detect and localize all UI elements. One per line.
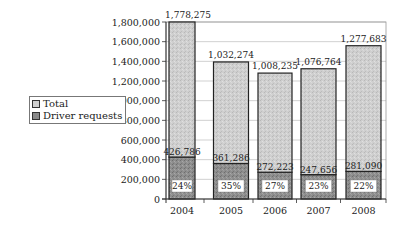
total-value-label: 1,778,275 bbox=[165, 10, 211, 20]
bar-total bbox=[169, 22, 195, 157]
percent-label: 27% bbox=[265, 181, 285, 191]
driver-requests-value-label: 426,786 bbox=[163, 147, 200, 157]
y-tick-label: 1,800,000 bbox=[112, 17, 160, 28]
total-value-label: 1,277,683 bbox=[341, 34, 387, 44]
bar-total bbox=[346, 46, 381, 172]
x-tick-label: 2008 bbox=[351, 205, 375, 216]
percent-label: 23% bbox=[308, 181, 328, 191]
driver-requests-value-label: 272,223 bbox=[256, 162, 293, 172]
legend-item-driver-requests: Driver requests bbox=[32, 110, 122, 122]
y-tick-label: 1,600,000 bbox=[112, 36, 160, 47]
x-tick-label: 2006 bbox=[263, 205, 287, 216]
legend-swatch-total bbox=[32, 100, 40, 108]
bar-driver-requests bbox=[169, 157, 195, 199]
y-tick-label: 1,400,000 bbox=[112, 56, 160, 67]
legend-item-total: Total bbox=[32, 98, 122, 110]
legend-label-driver-requests: Driver requests bbox=[43, 110, 122, 122]
legend: Total Driver requests bbox=[29, 96, 126, 124]
x-tick-label: 2005 bbox=[219, 205, 243, 216]
bar-total bbox=[214, 62, 249, 164]
x-tick-label: 2004 bbox=[170, 205, 194, 216]
y-tick-label: 200,000 bbox=[121, 174, 160, 185]
y-tick-label: 0 bbox=[154, 194, 160, 205]
driver-requests-value-label: 361,286 bbox=[212, 153, 249, 163]
y-tick-label: 600,000 bbox=[121, 135, 160, 146]
percent-label: 24% bbox=[172, 181, 192, 191]
legend-label-total: Total bbox=[43, 98, 68, 110]
bar-total bbox=[258, 73, 292, 172]
y-tick-label: 1,200,000 bbox=[112, 76, 160, 87]
bar-total bbox=[301, 69, 336, 175]
y-tick-label: 800,000 bbox=[121, 115, 160, 126]
total-value-label: 1,076,764 bbox=[296, 57, 342, 67]
legend-swatch-driver-requests bbox=[32, 112, 40, 120]
total-value-label: 1,008,235 bbox=[252, 61, 298, 71]
percent-label: 35% bbox=[221, 181, 241, 191]
driver-requests-value-label: 281,090 bbox=[345, 161, 382, 171]
total-value-label: 1,032,274 bbox=[208, 50, 254, 60]
percent-label: 22% bbox=[353, 181, 373, 191]
bars bbox=[169, 22, 381, 199]
x-tick-label: 2007 bbox=[306, 205, 330, 216]
y-tick-label: 400,000 bbox=[121, 154, 160, 165]
driver-requests-value-label: 247,656 bbox=[300, 165, 337, 175]
